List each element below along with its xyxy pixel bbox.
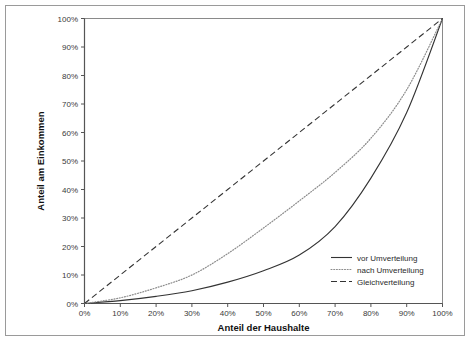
- y-tick-label: 90%: [62, 43, 78, 52]
- y-axis-title: Anteil am Einkommen: [35, 111, 46, 210]
- y-tick-label: 20%: [62, 243, 78, 252]
- y-tick-label: 80%: [62, 72, 78, 81]
- x-tick-label: 50%: [255, 309, 271, 318]
- legend-label-gleichverteilung: Gleichverteilung: [357, 278, 414, 287]
- y-tick-label: 100%: [58, 15, 78, 24]
- x-tick-label: 90%: [399, 309, 415, 318]
- y-tick-label: 50%: [62, 157, 78, 166]
- legend-label-nach-umverteilung: nach Umverteilung: [357, 266, 424, 275]
- y-tick-label: 10%: [62, 271, 78, 280]
- y-tick-label: 0%: [66, 300, 78, 309]
- x-tick-label: 10%: [112, 309, 128, 318]
- y-tick-label: 30%: [62, 214, 78, 223]
- legend-label-vor-umverteilung: vor Umverteilung: [357, 254, 417, 263]
- x-tick-label: 0%: [79, 309, 91, 318]
- x-tick-label: 60%: [291, 309, 307, 318]
- x-axis-title: Anteil der Haushalte: [218, 322, 310, 333]
- x-tick-label: 80%: [363, 309, 379, 318]
- x-tick-label: 30%: [184, 309, 200, 318]
- x-tick-label: 40%: [220, 309, 236, 318]
- lorenz-curve-chart: 100% 90% 80% 70% 60% 50% 40% 30% 20% 10%…: [0, 0, 472, 343]
- y-tick-label: 60%: [62, 129, 78, 138]
- y-tick-label: 40%: [62, 186, 78, 195]
- x-tick-label: 20%: [148, 309, 164, 318]
- x-tick-label: 70%: [327, 309, 343, 318]
- y-tick-label: 70%: [62, 100, 78, 109]
- x-tick-label: 100%: [432, 309, 452, 318]
- chart-screenshot: 100% 90% 80% 70% 60% 50% 40% 30% 20% 10%…: [0, 0, 472, 343]
